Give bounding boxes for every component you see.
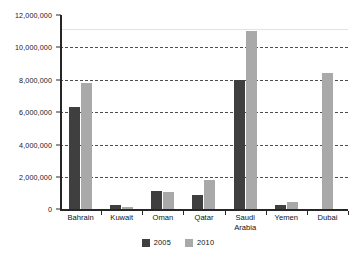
y-axis-tick-label: 4,000,000	[19, 140, 52, 149]
bar	[234, 80, 245, 210]
legend-item: 2010	[185, 238, 214, 247]
x-axis-category-label: Oman	[142, 213, 183, 223]
bar-group	[266, 15, 307, 209]
bars-layer	[60, 15, 348, 211]
x-axis-category-label: Yemen	[266, 213, 307, 223]
bar	[322, 73, 333, 209]
x-axis-category-label: Saudi Arabia	[225, 213, 266, 233]
bar	[151, 191, 162, 210]
y-axis-tick-label: 2,000,000	[19, 173, 52, 182]
bar-group	[142, 15, 183, 209]
x-axis-tick-mark	[348, 211, 349, 215]
bar-group	[183, 15, 224, 209]
bar-group	[60, 15, 101, 209]
y-axis-tick-label: 8,000,000	[19, 75, 52, 84]
x-axis-category-label: Qatar	[183, 213, 224, 223]
y-axis-tick-label: 12,000,000	[15, 11, 52, 20]
legend-swatch-icon	[185, 239, 193, 247]
legend-item: 2005	[142, 238, 171, 247]
x-axis-category-label: Dubai	[307, 213, 348, 223]
bar-chart: 12,000,00010,000,0008,000,0006,000,0004,…	[0, 0, 356, 262]
bar	[192, 195, 203, 210]
bar	[287, 202, 298, 209]
plot-area	[60, 15, 348, 211]
y-axis-tick-label: 0	[48, 205, 52, 214]
y-axis: 12,000,00010,000,0008,000,0006,000,0004,…	[0, 0, 60, 262]
x-axis-category-label: Kuwait	[101, 213, 142, 223]
chart-legend: 20052010	[0, 238, 356, 247]
bar-group	[101, 15, 142, 209]
bar	[163, 192, 174, 209]
legend-label: 2005	[154, 238, 171, 247]
legend-label: 2010	[197, 238, 214, 247]
bar	[204, 180, 215, 209]
bar	[81, 83, 92, 209]
bar-group	[307, 15, 348, 209]
legend-swatch-icon	[142, 239, 150, 247]
x-axis-category-label: Bahrain	[60, 213, 101, 223]
bar-group	[225, 15, 266, 209]
y-axis-tick-label: 6,000,000	[19, 108, 52, 117]
bar	[275, 205, 286, 210]
bar	[122, 207, 133, 210]
y-axis-tick-label: 10,000,000	[15, 43, 52, 52]
bar	[246, 31, 257, 209]
bar	[69, 107, 80, 209]
bar	[110, 205, 121, 209]
